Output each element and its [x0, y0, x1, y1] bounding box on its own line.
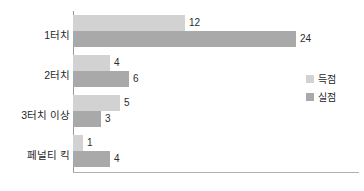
legend-label: 실점 [318, 89, 336, 104]
bar-value-label: 6 [129, 71, 139, 87]
bar-value-label: 3 [101, 111, 111, 127]
bar-deukjeom [73, 15, 185, 31]
legend: 득점 실점 [306, 72, 336, 108]
bar-value-label: 4 [110, 55, 120, 71]
bar-value-label: 1 [83, 135, 93, 151]
bar-deukjeom [73, 55, 110, 71]
bar-group: 12 24 [73, 15, 359, 47]
legend-item-deukjeom: 득점 [306, 72, 336, 85]
bar-group: 1 4 [73, 135, 359, 167]
bar-chart: 1터치 2터치 3터치 이상 페널티 킥 12 24 4 6 [0, 0, 364, 191]
bar-value-label: 12 [185, 15, 200, 31]
legend-label: 득점 [318, 71, 336, 86]
bar-row: 3 [73, 111, 359, 127]
legend-swatch-icon [306, 93, 314, 101]
bar-siljeom [73, 71, 129, 87]
bar-siljeom [73, 111, 101, 127]
bar-row: 1 [73, 135, 359, 151]
bar-value-label: 24 [296, 31, 311, 47]
bar-siljeom [73, 151, 110, 167]
bar-deukjeom [73, 135, 83, 151]
bar-row: 24 [73, 31, 359, 47]
legend-item-siljeom: 실점 [306, 90, 336, 103]
bar-value-label: 4 [110, 151, 120, 167]
category-label-3teochi-isang: 3터치 이상 [0, 107, 70, 122]
category-label-penalty-kick: 페널티 킥 [0, 147, 70, 162]
x-axis-line [73, 172, 359, 173]
bar-value-label: 5 [120, 95, 130, 111]
bar-deukjeom [73, 95, 120, 111]
legend-swatch-icon [306, 75, 314, 83]
category-label-2teochi: 2터치 [0, 67, 70, 82]
bar-row: 12 [73, 15, 359, 31]
category-label-1teochi: 1터치 [0, 27, 70, 42]
bar-row: 4 [73, 151, 359, 167]
bar-row: 4 [73, 55, 359, 71]
bar-siljeom [73, 31, 296, 47]
